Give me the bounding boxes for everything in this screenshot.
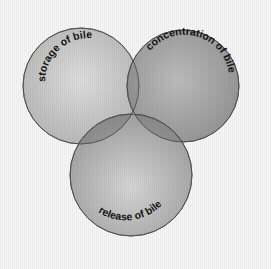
venn-svg: storage of bile concentration of bile re…: [0, 0, 271, 269]
venn-diagram: storage of bile concentration of bile re…: [0, 0, 271, 269]
